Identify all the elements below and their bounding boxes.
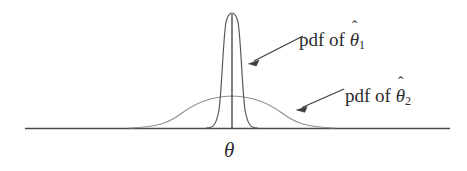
- annotation-label-pdf-1: pdf of ˆθ1: [299, 24, 365, 51]
- annotation-label-pdf-2-symbol: ˆθ: [396, 80, 405, 105]
- axis-center-label: θ: [224, 138, 234, 163]
- annotation-arrow-pdf-2: [297, 89, 345, 112]
- hat-accent-icon: ˆ: [398, 75, 403, 91]
- annotation-label-pdf-1-subscript: 1: [359, 38, 365, 52]
- annotation-label-pdf-2-subscript: 2: [405, 94, 411, 108]
- pdf-comparison-figure: pdf of ˆθ1 pdf of ˆθ2 θ: [0, 0, 467, 171]
- annotation-label-pdf-2-prefix: pdf of: [345, 85, 396, 106]
- hat-accent-icon: ˆ: [352, 19, 357, 35]
- annotation-arrow-pdf-1: [249, 36, 304, 66]
- annotation-label-pdf-1-prefix: pdf of: [299, 29, 350, 50]
- annotation-label-pdf-2: pdf of ˆθ2: [345, 80, 411, 107]
- annotation-label-pdf-1-symbol: ˆθ: [350, 24, 359, 49]
